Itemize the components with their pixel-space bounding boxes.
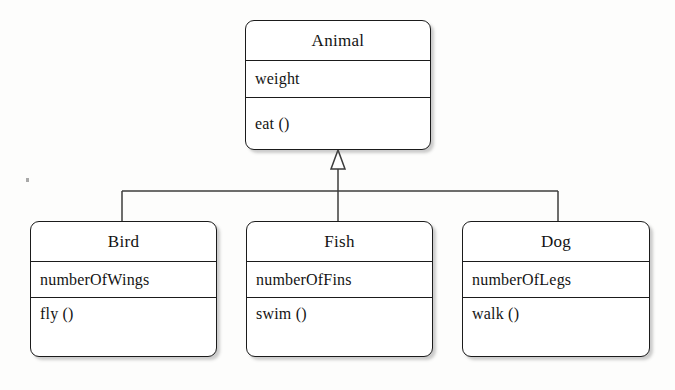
hollow-triangle-inheritance-arrow-icon: [331, 150, 345, 169]
operation-compartment-dog: walk (): [463, 297, 649, 356]
class-box-fish[interactable]: Fish numberOfFins swim (): [246, 221, 433, 357]
class-name-label: Dog: [541, 232, 571, 252]
attribute-label: numberOfWings: [40, 271, 150, 289]
operation-label: eat (): [255, 115, 290, 133]
class-box-dog[interactable]: Dog numberOfLegs walk (): [462, 221, 650, 357]
operation-label: swim (): [256, 305, 307, 323]
class-name-label: Animal: [312, 31, 365, 51]
uml-class-diagram: Animal weight eat () Bird numberOfWings …: [0, 0, 675, 390]
class-name-label: Fish: [324, 232, 355, 252]
scan-artifact-speck: [26, 178, 29, 182]
operation-label: fly (): [40, 305, 74, 323]
operation-compartment-fish: swim (): [247, 297, 432, 356]
operation-compartment-bird: fly (): [31, 297, 216, 356]
attribute-label: numberOfFins: [256, 271, 352, 289]
operation-label: walk (): [472, 305, 519, 323]
class-box-bird[interactable]: Bird numberOfWings fly (): [30, 221, 217, 357]
class-name-compartment-fish: Fish: [247, 222, 432, 261]
class-name-compartment-dog: Dog: [463, 222, 649, 261]
class-name-compartment-animal: Animal: [246, 21, 430, 60]
attribute-label: weight: [255, 70, 300, 88]
class-name-label: Bird: [108, 232, 139, 252]
attribute-compartment-fish: numberOfFins: [247, 261, 432, 297]
attribute-label: numberOfLegs: [472, 271, 571, 289]
class-box-animal[interactable]: Animal weight eat (): [245, 20, 431, 150]
attribute-compartment-animal: weight: [246, 60, 430, 97]
class-name-compartment-bird: Bird: [31, 222, 216, 261]
operation-compartment-animal: eat (): [246, 97, 430, 149]
attribute-compartment-bird: numberOfWings: [31, 261, 216, 297]
attribute-compartment-dog: numberOfLegs: [463, 261, 649, 297]
